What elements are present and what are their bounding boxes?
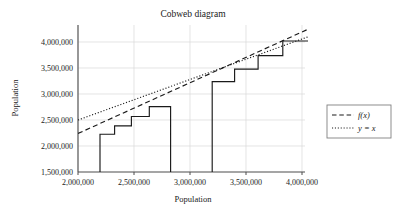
y-axis-title: Population [10,79,20,117]
y-tick-label: 3,000,000 [41,90,73,99]
x-tick-label: 2,000,000 [62,178,94,187]
x-tick-label: 4,000,000 [286,178,318,187]
chart-title: Cobweb diagram [160,9,226,19]
y-tick-label: 1,500,000 [41,168,73,177]
x-tick-label: 3,500,000 [230,178,262,187]
legend-label-fx: f(x) [358,110,370,120]
x-tick-label: 2,500,000 [118,178,150,187]
y-tick-label: 2,500,000 [41,116,73,125]
x-tick-label: 3,000,000 [174,178,206,187]
cobweb-diagram-figure: Cobweb diagram [0,0,406,215]
chart-svg: Cobweb diagram [0,0,406,215]
legend-label-y-equals-x: y = x [357,123,376,133]
x-axis-title: Population [175,194,213,204]
chart-legend: f(x) y = x [327,105,391,138]
y-tick-label: 3,500,000 [41,64,73,73]
y-tick-label: 2,000,000 [41,142,73,151]
y-tick-label: 4,000,000 [41,38,73,47]
